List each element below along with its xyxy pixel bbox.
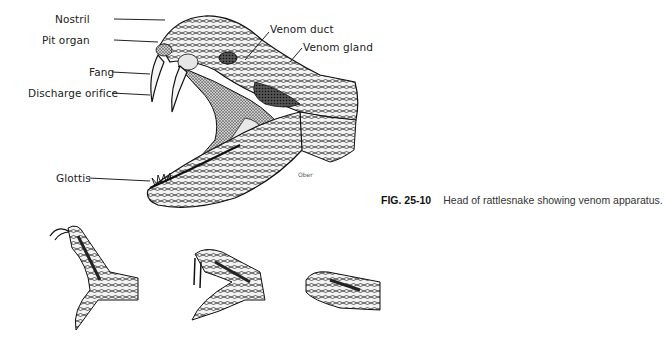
figure-caption-text: Head of rattlesnake showing venom appara… xyxy=(443,194,662,206)
figure-caption: FIG. 25-10Head of rattlesnake showing ve… xyxy=(381,194,663,206)
thumbnail-head-closed xyxy=(306,272,380,310)
label-venom-duct: Venom duct xyxy=(270,23,334,35)
thumbnail-head-front xyxy=(50,226,138,330)
label-pit-organ: Pit organ xyxy=(42,34,90,46)
label-fang: Fang xyxy=(89,66,114,78)
thumbnail-head-striking xyxy=(192,249,265,320)
label-glottis: Glottis xyxy=(56,172,91,184)
figure-number: FIG. 25-10 xyxy=(381,194,431,206)
label-nostril: Nostril xyxy=(55,13,90,25)
label-venom-gland: Venom gland xyxy=(303,41,373,53)
label-discharge-orifice: Discharge orifice xyxy=(28,87,118,99)
artist-signature: Ober xyxy=(298,171,313,178)
